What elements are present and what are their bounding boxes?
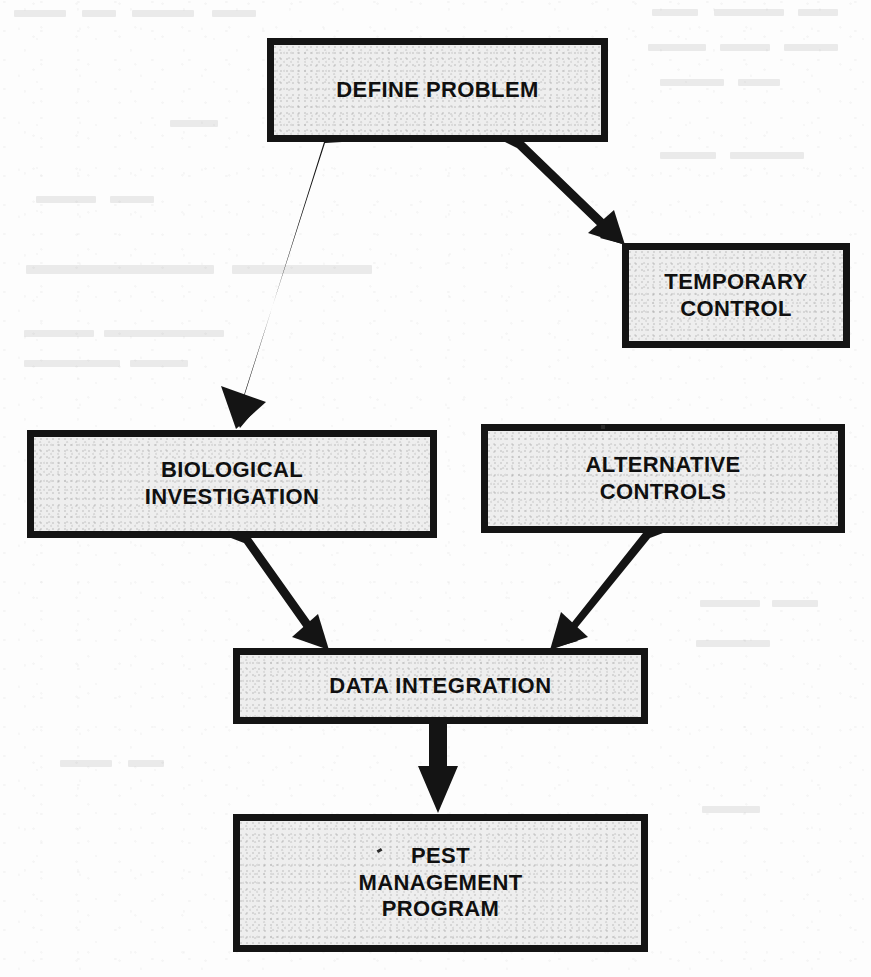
node-pest-management-program[interactable]: PEST MANAGEMENT PROGRAM — [233, 814, 648, 952]
node-data-integration[interactable]: DATA INTEGRATION — [233, 648, 648, 724]
arrow-data-to-pest — [418, 724, 458, 813]
node-label: BIOLOGICAL INVESTIGATION — [145, 457, 320, 511]
node-define-problem[interactable]: DEFINE PROBLEM — [267, 38, 608, 142]
node-label: TEMPORARY CONTROL — [664, 269, 807, 323]
node-temporary-control[interactable]: TEMPORARY CONTROL — [622, 243, 850, 348]
node-label: PEST MANAGEMENT PROGRAM — [358, 843, 522, 923]
arrow-define-to-biological — [224, 142, 342, 428]
node-label: ALTERNATIVE CONTROLS — [585, 452, 740, 506]
arrow-biological-to-data-head — [292, 614, 329, 650]
flowchart-page: DEFINE PROBLEM TEMPORARY CONTROL BIOLOGI… — [0, 0, 871, 977]
node-alternative-controls[interactable]: ALTERNATIVE CONTROLS — [481, 424, 845, 533]
node-label: DEFINE PROBLEM — [336, 77, 538, 104]
print-speck — [601, 425, 605, 429]
node-biological-investigation[interactable]: BIOLOGICAL INVESTIGATION — [27, 430, 437, 538]
node-label: DATA INTEGRATION — [329, 673, 552, 700]
